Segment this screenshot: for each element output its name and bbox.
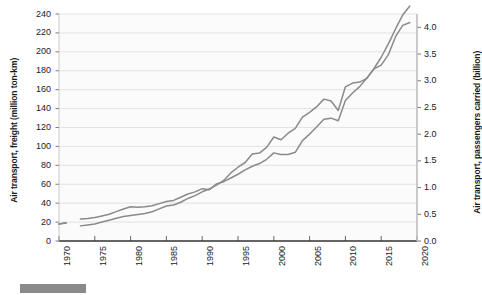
right-tick-label: 1.5 <box>424 156 456 165</box>
left-axis-ticks <box>56 14 60 241</box>
left-tick-label: 80 <box>19 161 51 170</box>
right-tick-label: 0.5 <box>424 210 456 219</box>
left-tick-label: 20 <box>19 218 51 227</box>
right-tick-label: 1.0 <box>424 183 456 192</box>
x-tick-label: 2000 <box>278 246 287 286</box>
x-tick-label: 1990 <box>206 246 215 286</box>
x-tick-label: 1970 <box>63 246 72 286</box>
left-tick-label: 240 <box>19 10 51 19</box>
left-tick-label: 160 <box>19 85 51 94</box>
x-tick-label: 2010 <box>349 246 358 286</box>
right-tick-label: 0.0 <box>424 237 456 246</box>
x-tick-label: 2015 <box>385 246 394 286</box>
left-tick-label: 120 <box>19 123 51 132</box>
left-tick-label: 0 <box>19 237 51 246</box>
left-tick-label: 60 <box>19 180 51 189</box>
left-tick-label: 100 <box>19 142 51 151</box>
left-tick-label: 200 <box>19 47 51 56</box>
x-tick-label: 2020 <box>421 246 430 286</box>
left-tick-label: 40 <box>19 199 51 208</box>
x-tick-label: 1985 <box>170 246 179 286</box>
left-tick-label: 180 <box>19 66 51 75</box>
right-tick-label: 3.5 <box>424 50 456 59</box>
right-tick-label: 2.0 <box>424 130 456 139</box>
left-axis-title: Air transport, freight (million ton-km) <box>10 30 19 230</box>
left-tick-label: 140 <box>19 104 51 113</box>
x-tick-label: 1980 <box>135 246 144 286</box>
right-axis-title: Air transport, passengers carried (billi… <box>473 32 482 232</box>
right-tick-label: 3.0 <box>424 76 456 85</box>
x-tick-label: 1995 <box>242 246 251 286</box>
left-tick-label: 220 <box>19 28 51 37</box>
right-tick-label: 2.5 <box>424 103 456 112</box>
right-tick-label: 4.0 <box>424 23 456 32</box>
x-tick-label: 2005 <box>314 246 323 286</box>
x-tick-label: 1975 <box>99 246 108 286</box>
legend-color-swatch <box>20 284 86 293</box>
